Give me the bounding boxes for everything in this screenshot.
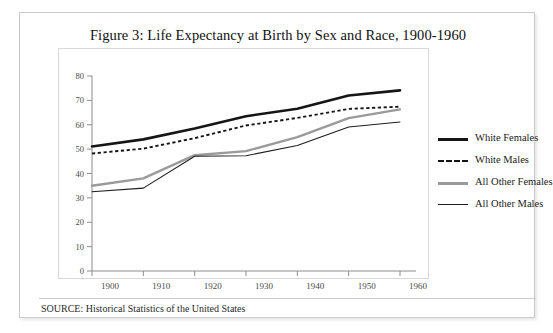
x-axis-tick-label: 1900 <box>101 281 120 291</box>
legend-item-white-males: White Males <box>438 149 550 171</box>
x-axis-tick-label: 1920 <box>204 281 223 291</box>
figure-title: Figure 3: Life Expectancy at Birth by Se… <box>20 27 536 44</box>
series-group <box>92 90 400 191</box>
source-note: SOURCE: Historical Statistics of the Uni… <box>41 303 245 314</box>
legend-line-icon-all-other-males <box>438 199 468 209</box>
x-axis-tick-label: 1930 <box>255 281 274 291</box>
y-axis-tick-label: 70 <box>76 95 85 105</box>
y-axis-tick-label: 60 <box>76 120 85 130</box>
legend-item-all-other-females: All Other Females <box>438 171 550 193</box>
plot-area: 0102030405060708019001910192019301940195… <box>58 48 429 279</box>
legend-line-icon-white-females <box>438 133 468 143</box>
chart-legend: White Females White Males All Other Fema… <box>438 127 550 215</box>
y-axis-tick-label: 80 <box>76 71 85 81</box>
series-line-all-other-males <box>92 122 400 192</box>
legend-item-all-other-males: All Other Males <box>438 193 550 215</box>
y-axis-tick-label: 0 <box>80 266 84 276</box>
y-axis-tick-label: 30 <box>76 193 85 203</box>
series-line-all-other-females <box>92 109 400 185</box>
legend-label: All Other Males <box>475 199 543 210</box>
figure-frame: Figure 3: Life Expectancy at Birth by Se… <box>19 12 535 318</box>
y-axis-tick-label: 20 <box>76 217 85 227</box>
legend-label: All Other Females <box>475 177 553 188</box>
legend-label: White Females <box>475 133 538 144</box>
x-axis-tick-label: 1960 <box>409 281 428 291</box>
x-axis-tick-label: 1910 <box>152 281 171 291</box>
y-axis-tick-label: 50 <box>76 144 85 154</box>
legend-item-white-females: White Females <box>438 127 550 149</box>
x-axis-tick-label: 1940 <box>306 281 325 291</box>
legend-line-icon-white-males <box>438 155 468 165</box>
legend-label: White Males <box>475 155 529 166</box>
series-line-white-males <box>92 107 400 154</box>
source-divider <box>39 298 536 299</box>
x-axis-tick-label: 1950 <box>358 281 377 291</box>
y-axis-tick-label: 10 <box>76 242 85 252</box>
legend-line-icon-all-other-females <box>438 177 468 187</box>
line-chart: 0102030405060708019001910192019301940195… <box>58 48 429 279</box>
y-axis-tick-label: 40 <box>76 169 85 179</box>
